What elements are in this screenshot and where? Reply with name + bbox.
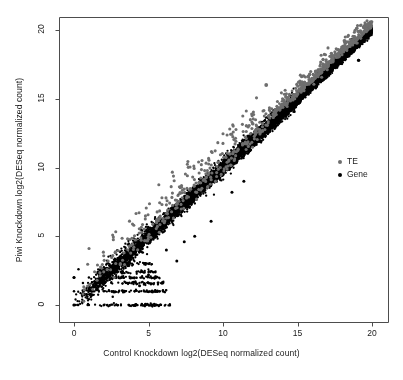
x-tick-label-15: 15 <box>283 328 313 338</box>
y-tick-label-20: 20 <box>36 19 46 39</box>
y-tick-label-15: 15 <box>36 88 46 108</box>
y-tick-label-0: 0 <box>36 294 46 314</box>
scatter-plot-canvas <box>0 0 403 380</box>
x-axis-title: Control Knockdown log2(DESeq normalized … <box>0 348 403 358</box>
chart-legend: TE Gene <box>336 155 392 181</box>
x-tick-label-0: 0 <box>59 328 89 338</box>
y-tick-label-5: 5 <box>36 225 46 245</box>
legend-item-gene: Gene <box>336 168 392 181</box>
legend-marker-te <box>338 160 342 164</box>
legend-label-gene: Gene <box>347 170 368 179</box>
scatter-plot-figure: Control Knockdown log2(DESeq normalized … <box>0 0 403 380</box>
y-tick-label-10: 10 <box>36 157 46 177</box>
legend-item-te: TE <box>336 155 392 168</box>
legend-label-te: TE <box>347 157 358 166</box>
y-axis-title: Piwi Knockdown log2(DESeq normalized cou… <box>14 0 28 340</box>
legend-marker-gene <box>338 173 342 177</box>
x-tick-label-10: 10 <box>208 328 238 338</box>
x-tick-label-20: 20 <box>357 328 387 338</box>
x-tick-label-5: 5 <box>134 328 164 338</box>
